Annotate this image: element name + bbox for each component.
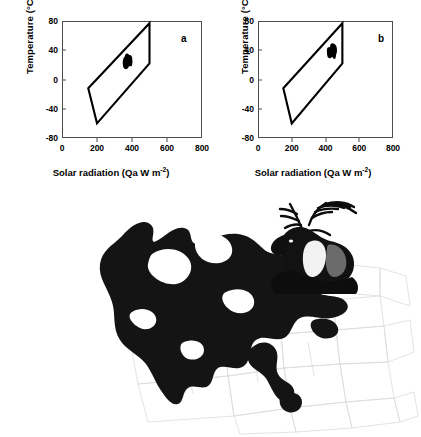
data-point-cluster-a (123, 54, 133, 70)
y-tick-label-a-2: 0 (53, 75, 58, 84)
y-tick-mark-a-3 (62, 108, 66, 109)
figure-root: Temperature (°C) (0, 0, 421, 437)
chart-panel-a: Temperature (°C) (0, 0, 210, 196)
elk-svg (268, 199, 363, 297)
y-tick-mark-b-3 (258, 108, 262, 109)
y-tick-mark-b-2 (258, 79, 262, 80)
x-axis-label-a-main: Solar radiation (Qa W m (53, 167, 161, 178)
cluster-svg-b (258, 21, 393, 138)
y-tick-label-a-0: 80 (49, 17, 58, 26)
x-axis-label-b-main: Solar radiation (Qa W m (255, 167, 363, 178)
y-tick-label-b-4: -80 (242, 134, 254, 143)
x-tick-label-a-3: 600 (160, 144, 174, 153)
chart-panel-b: Temperature (°C) 80 (211, 0, 421, 196)
plot-area-b: 80 40 0 -40 -80 0 200 400 600 800 (258, 21, 393, 138)
y-tick-mark-b-1 (258, 50, 262, 51)
y-tick-label-b-1: 40 (245, 46, 254, 55)
x-tick-label-b-4: 800 (386, 144, 400, 153)
x-tick-label-a-2: 400 (125, 144, 139, 153)
x-tick-label-a-1: 200 (90, 144, 104, 153)
x-axis-label-b-close: ) (368, 167, 371, 178)
x-tick-label-a-0: 0 (60, 144, 65, 153)
charts-row: Temperature (°C) (0, 0, 421, 196)
panel-letter-a: a (181, 33, 187, 44)
data-point-cluster-b (327, 43, 337, 59)
x-tick-label-b-0: 0 (256, 144, 261, 153)
y-tick-label-a-1: 40 (49, 46, 58, 55)
x-tick-mark-b-1 (291, 138, 292, 142)
us-map-svg (88, 216, 421, 437)
us-distribution-range-map (88, 216, 421, 437)
x-tick-mark-b-3 (359, 138, 360, 142)
x-tick-mark-a-2 (132, 138, 133, 142)
y-axis-label-a: Temperature (°C) (23, 0, 37, 95)
x-axis-label-a: Solar radiation (Qa W m-2) (6, 166, 216, 178)
x-tick-label-b-2: 400 (318, 144, 332, 153)
y-tick-label-a-3: -40 (46, 105, 58, 114)
x-axis-label-b: Solar radiation (Qa W m-2) (208, 166, 418, 178)
y-tick-label-a-4: -80 (46, 134, 58, 143)
x-axis-label-a-close: ) (166, 167, 169, 178)
y-tick-label-b-0: 80 (245, 17, 254, 26)
x-tick-label-b-3: 600 (352, 144, 366, 153)
x-tick-mark-b-2 (325, 138, 326, 142)
y-tick-label-b-3: -40 (242, 105, 254, 114)
elk-eye (289, 239, 293, 242)
x-tick-mark-a-3 (167, 138, 168, 142)
y-tick-mark-a-2 (62, 79, 66, 80)
x-tick-label-a-4: 800 (195, 144, 209, 153)
x-tick-mark-a-1 (97, 138, 98, 142)
x-tick-label-b-1: 200 (285, 144, 299, 153)
panel-letter-b: b (378, 33, 384, 44)
y-tick-mark-a-1 (62, 50, 66, 51)
imagery-row (0, 196, 421, 437)
elk-bull-photo (268, 199, 363, 297)
y-tick-label-b-2: 0 (249, 75, 254, 84)
elk-muzzle (271, 235, 288, 256)
